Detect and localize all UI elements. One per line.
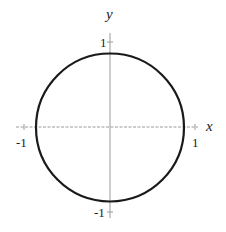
x-tick-label-neg1: -1 bbox=[16, 135, 27, 150]
y-tick-label-neg1: -1 bbox=[94, 205, 105, 220]
x-axis-label: x bbox=[205, 118, 213, 134]
unit-circle-diagram: y x 1 -1 -1 1 bbox=[0, 0, 226, 232]
y-axis-label: y bbox=[104, 6, 113, 22]
y-tick-label-1: 1 bbox=[100, 35, 107, 50]
x-tick-label-1: 1 bbox=[192, 135, 199, 150]
